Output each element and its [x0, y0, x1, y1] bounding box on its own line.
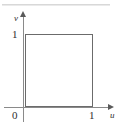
- y-axis-tick-label-one: 1: [12, 29, 18, 40]
- vertical-axis-arrow-icon: [20, 11, 26, 17]
- origin-tick-label: 0: [12, 110, 18, 121]
- horizontal-axis-label: u: [110, 111, 115, 120]
- unit-square-shape: [25, 34, 93, 107]
- figure-canvas: v u 0 1 1: [0, 0, 120, 132]
- vertical-axis-label: v: [14, 14, 18, 23]
- vertical-axis-line: [23, 14, 24, 122]
- top-rule-divider-shadow: [2, 5, 110, 6]
- x-axis-tick-label-one: 1: [89, 110, 95, 121]
- horizontal-axis-line: [4, 107, 112, 108]
